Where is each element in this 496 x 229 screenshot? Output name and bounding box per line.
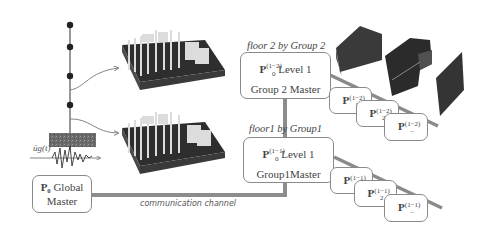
processor-symbol: P — [398, 120, 405, 132]
global-master-line1: P₀ Global — [33, 180, 91, 194]
arrow-to-floor1 — [70, 119, 118, 133]
global-master-text: Global — [53, 181, 83, 193]
group1-master-box: P(1−1)0 Level 1 Group1Master — [243, 137, 334, 183]
arrow-to-floor2 — [70, 68, 118, 90]
ground-block — [49, 133, 96, 147]
processor-symbol: P — [398, 201, 405, 213]
processor-subscript: 2 — [380, 194, 384, 202]
seismic-waveform — [52, 146, 92, 168]
mass-node — [67, 73, 73, 79]
group2-master-line1: P(1−2)0 Level 1 — [241, 59, 330, 82]
floor1-label: floor1 by Group1 — [249, 123, 322, 134]
group2-worker-n: P(1−2)– — [384, 113, 428, 141]
floor2-building-model — [122, 30, 225, 90]
ground-motion-label: üg(t) — [33, 143, 51, 153]
channel-label: communication channel — [140, 199, 236, 208]
global-master-box: P₀ Global Master — [32, 175, 92, 213]
group1-worker-n: P(1−1)– — [384, 194, 428, 222]
group2-master-box: P(1−2)0 Level 1 Group 2 Master — [240, 52, 331, 99]
level-text: Level 1 — [281, 148, 314, 160]
mass-node — [67, 22, 73, 28]
processor-symbol: P₀ — [41, 181, 51, 193]
group2-master-title: Group 2 Master — [241, 82, 330, 97]
level-text: Level 1 — [278, 63, 311, 75]
processor-subscript: – — [410, 127, 414, 135]
mass-node — [67, 102, 73, 108]
floor1-building-model — [122, 112, 225, 174]
global-master-line2: Master — [33, 194, 91, 208]
group1-master-line1: P(1−1)0 Level 1 — [244, 144, 333, 167]
processor-subscript: 0 — [272, 70, 276, 78]
floor2-label: floor 2 by Group 2 — [247, 40, 325, 51]
processor-subscript: 0 — [275, 155, 279, 163]
mass-node — [67, 44, 73, 50]
processor-subscript: – — [410, 208, 414, 216]
group1-master-title: Group1Master — [244, 167, 333, 182]
